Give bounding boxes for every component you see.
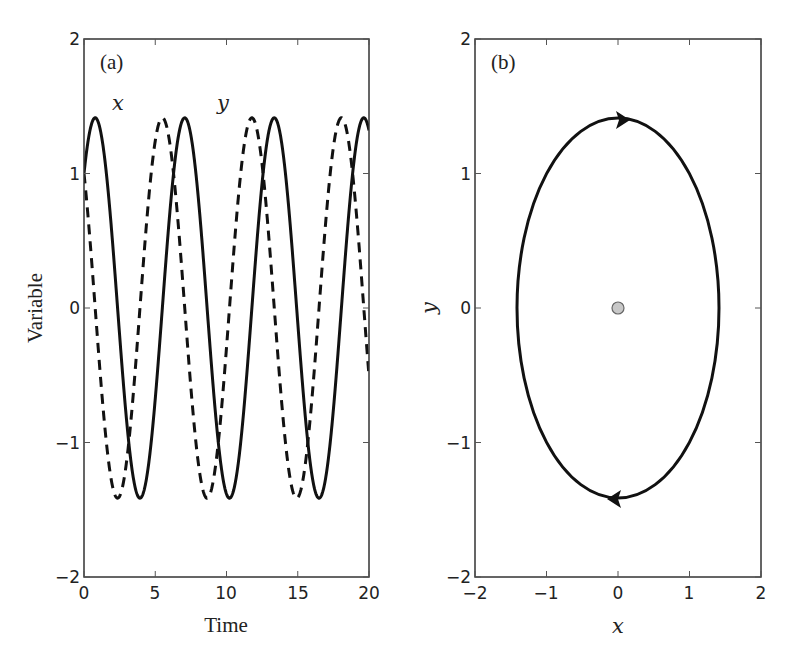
panel-a: (a) x y 0 5 10 15 20 2 1 0 −1 −2 Time Va… xyxy=(23,29,380,637)
ytick-label: −2 xyxy=(55,567,80,587)
arrow-right-icon xyxy=(616,111,630,129)
ytick-label: −1 xyxy=(55,433,80,453)
ytick-label: 1 xyxy=(69,164,80,184)
y-series-line xyxy=(84,118,369,498)
xtick-label: 15 xyxy=(287,583,309,603)
xtick-label: −1 xyxy=(533,583,558,603)
xtick-label: 1 xyxy=(684,583,695,603)
ytick-label: 1 xyxy=(460,164,471,184)
curve-label-x: x xyxy=(112,91,124,115)
xtick-label: 5 xyxy=(150,583,161,603)
ytick-label: 0 xyxy=(69,298,80,318)
panel-a-ylabel: Variable xyxy=(23,273,47,343)
ytick-label: −1 xyxy=(446,433,471,453)
x-series-line xyxy=(84,118,369,498)
ytick-label: 2 xyxy=(69,29,80,49)
xtick-label: 20 xyxy=(358,583,380,603)
xtick-label: 2 xyxy=(756,583,767,603)
fixed-point-marker xyxy=(612,302,624,314)
curve-label-y: y xyxy=(216,91,230,115)
panel-a-label: (a) xyxy=(100,50,123,74)
panel-b: (b) −2 −1 0 1 2 2 1 0 −1 −2 x y xyxy=(417,29,766,638)
panel-a-xlabel: Time xyxy=(204,613,248,637)
panel-b-curves xyxy=(517,111,719,508)
panel-a-xtick-labels: 0 5 10 15 20 xyxy=(79,583,380,603)
panel-b-ytick-labels: 2 1 0 −1 −2 xyxy=(446,29,471,587)
panel-b-xlabel: x xyxy=(612,614,624,638)
xtick-label: 10 xyxy=(215,583,237,603)
panel-b-xtick-labels: −2 −1 0 1 2 xyxy=(462,583,766,603)
ytick-label: 0 xyxy=(460,298,471,318)
panel-a-curves xyxy=(84,118,369,498)
panel-b-ylabel: y xyxy=(417,301,441,315)
ytick-label: 2 xyxy=(460,29,471,49)
panel-b-label: (b) xyxy=(491,50,516,74)
xtick-label: 0 xyxy=(79,583,90,603)
panel-a-ytick-labels: 2 1 0 −1 −2 xyxy=(55,29,80,587)
ytick-label: −2 xyxy=(446,567,471,587)
figure: (a) x y 0 5 10 15 20 2 1 0 −1 −2 Time Va… xyxy=(0,0,789,658)
xtick-label: 0 xyxy=(613,583,624,603)
